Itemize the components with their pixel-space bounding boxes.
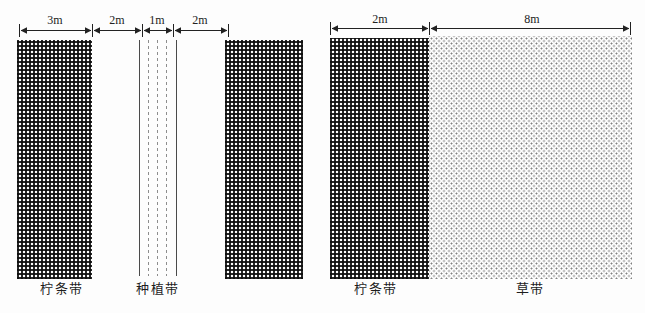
diagram-stage: 3m 2m 1m 2m 2m 8m 柠条带 种植带 柠条带 草带 xyxy=(0,0,645,313)
planting-row-dash-1 xyxy=(148,40,149,276)
left-dim-label-2m-a: 2m xyxy=(95,14,139,27)
grass-belt-band xyxy=(429,36,632,279)
right-dim-label-2m: 2m xyxy=(358,13,402,26)
planting-row-dash-2 xyxy=(157,40,158,276)
planting-row-dash-3 xyxy=(166,40,167,276)
left-dim-label-1m: 1m xyxy=(135,14,179,27)
left-caragana-belt-label: 柠条带 xyxy=(20,282,104,296)
right-caragana-belt-label: 柠条带 xyxy=(334,282,418,296)
left-caragana-belt-band-2 xyxy=(225,40,303,279)
planting-belt-band xyxy=(139,40,177,276)
left-dim-label-3m: 3m xyxy=(33,14,77,27)
right-caragana-belt-band xyxy=(330,38,429,279)
grass-belt-label: 草带 xyxy=(488,282,572,296)
left-caragana-belt-band-1 xyxy=(17,40,92,279)
planting-belt-label: 种植带 xyxy=(116,282,200,296)
left-dim-label-2m-b: 2m xyxy=(178,14,222,27)
field-layout-diagram: { "figure": { "description": "Schematic … xyxy=(0,0,645,313)
right-dim-label-8m: 8m xyxy=(510,13,554,26)
